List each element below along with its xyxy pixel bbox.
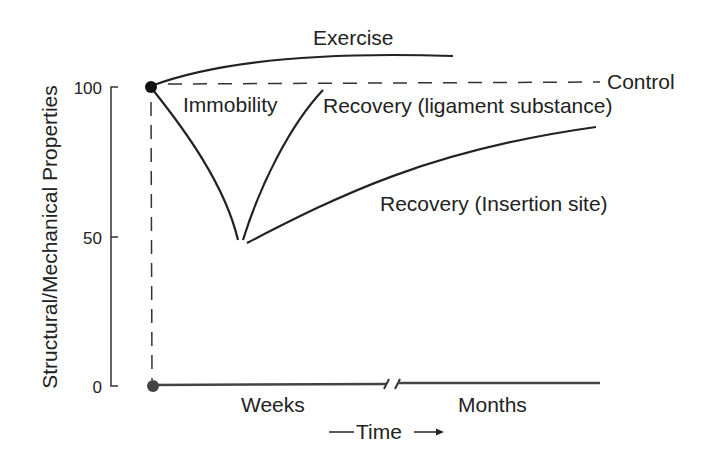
exercise-label: Exercise bbox=[313, 26, 394, 49]
control-label: Control bbox=[607, 70, 675, 93]
time-label: Time bbox=[356, 420, 402, 443]
time-arrow-icon bbox=[436, 429, 444, 436]
start-dashed-line bbox=[151, 102, 152, 380]
months-label: Months bbox=[458, 393, 527, 416]
time-baseline-weeks bbox=[153, 384, 386, 385]
y-tick-label-100: 100 bbox=[74, 79, 102, 98]
start-point-100 bbox=[145, 81, 157, 93]
exercise-curve bbox=[151, 55, 453, 86]
y-tick-label-50: 50 bbox=[83, 229, 102, 248]
y-tick-label-0: 0 bbox=[93, 378, 102, 397]
recovery-insertion-curve bbox=[247, 127, 596, 243]
y-axis-label: Structural/Mechanical Properties bbox=[38, 85, 61, 388]
control-line bbox=[168, 82, 600, 84]
recovery-ligament-label: Recovery (ligament substance) bbox=[323, 94, 612, 117]
immobility-label: Immobility bbox=[183, 93, 278, 116]
chart-canvas: Structural/Mechanical Properties 100 50 … bbox=[0, 0, 715, 466]
recovery-insertion-label: Recovery (Insertion site) bbox=[380, 192, 608, 215]
weeks-label: Weeks bbox=[241, 393, 305, 416]
